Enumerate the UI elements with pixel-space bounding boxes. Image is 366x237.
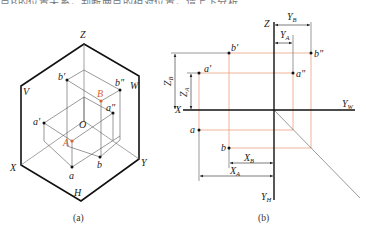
point-B-dot [99,99,102,102]
label-y-a: Y [141,157,148,168]
point-A-dot [70,139,73,142]
label-yw-b: YW [342,98,354,110]
label-plane-h: H [73,187,82,198]
label-b-dprime-b: b" [314,48,324,59]
dim-label-yb: YB [287,11,297,23]
diagram-canvas: Z V W H X Y O b' b" a" a' B A a b (a) [0,0,366,237]
label-a-prime-b: a' [204,63,212,74]
axes-a [21,44,139,165]
label-plane-v: V [23,86,31,97]
dim-label-ya: YA [280,29,290,41]
caption-b: (b) [258,213,269,224]
label-a-prime-a: a' [33,116,41,127]
caption-a: (a) [73,213,84,224]
label-a-a: a [69,170,74,181]
dim-label-xa: XA [229,165,240,177]
label-b-prime-b: b' [231,42,239,53]
label-point-B: B [97,88,103,99]
dim-label-za: ZA [178,87,190,97]
label-z-b: Z [264,18,270,29]
figure-b-orthographic: Z X YW YH b' b" a' a" a b YB YA XB XA ZB… [162,11,360,224]
label-point-A: A [62,137,70,148]
label-z-a: Z [80,29,86,40]
label-b-b: b [221,142,226,153]
label-yh-b: YH [261,191,272,203]
dimension-lines-b [175,25,310,176]
figure-a-isometric: Z V W H X Y O b' b" a" a' B A a b (a) [9,29,148,224]
label-b-prime-a: b' [58,71,66,82]
label-b-a: b [97,159,102,170]
axes-b [183,22,355,200]
points-b [198,52,313,150]
label-a-b: a [190,124,195,135]
label-a-dprime-b: a" [296,68,306,79]
dim-label-xb: XB [243,152,254,164]
projection-lines-b [199,53,311,148]
label-x-b: X [174,104,182,115]
label-x-a: X [9,162,17,173]
label-origin-o: O [79,119,86,130]
label-a-dprime-a: a" [106,102,116,113]
label-b-dprime-a: b" [115,77,125,88]
dim-label-zb: ZB [162,76,174,86]
